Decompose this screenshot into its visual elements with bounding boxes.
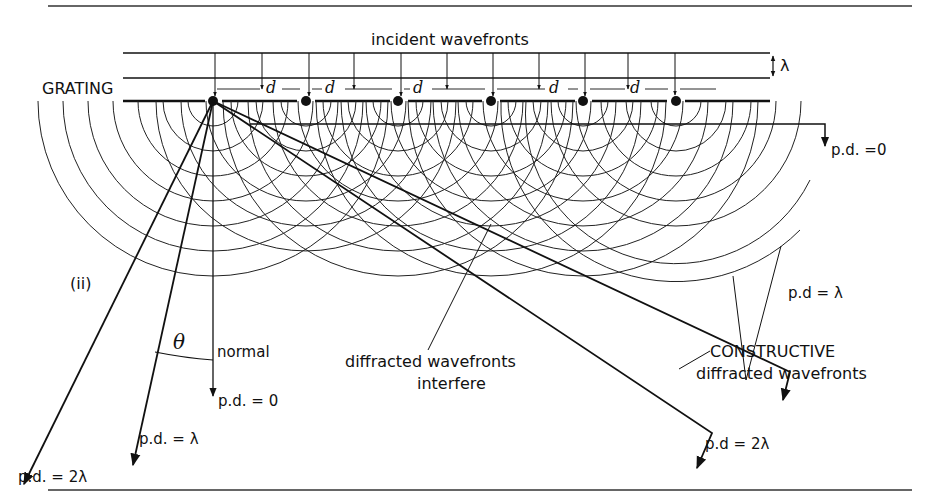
left-ray-label-pd-2lambda: p.d. = 2λ xyxy=(18,468,87,486)
d-label-4: d xyxy=(549,78,559,97)
constructive-label-line2: diffracted wavefronts xyxy=(696,364,867,383)
left-diffracted-rays xyxy=(24,101,213,484)
theta-label: θ xyxy=(173,330,185,354)
diffracted-wavefronts xyxy=(38,101,810,282)
right-ray-label-pd-lambda: p.d = λ xyxy=(788,284,843,302)
right-ray-label-pd-0: p.d. =0 xyxy=(831,141,886,159)
d-label-3: d xyxy=(413,78,423,97)
grating-label: GRATING xyxy=(42,79,113,98)
interfere-label-line1: diffracted wavefronts xyxy=(345,352,516,371)
left-ray-label-pd-0: p.d. = 0 xyxy=(218,392,278,410)
normal-label: normal xyxy=(217,343,270,361)
right-diffracted-rays xyxy=(213,101,825,468)
constructive-label-line1: CONSTRUCTIVE xyxy=(710,342,835,361)
ray-pd-2lambda-left xyxy=(24,101,213,484)
ray-pd-2lambda-right xyxy=(213,101,712,468)
interfere-label-line2: interfere xyxy=(417,374,486,393)
wavelength-label: λ xyxy=(780,56,789,75)
incident-rays xyxy=(215,53,675,96)
panel-label: (ii) xyxy=(70,274,91,293)
d-label-2: d xyxy=(325,78,335,97)
left-ray-label-pd-lambda: p.d. = λ xyxy=(139,430,199,448)
d-label-5: d xyxy=(630,78,640,97)
ray-pd-lambda-left xyxy=(133,101,213,465)
right-ray-label-pd-2lambda: p.d = 2λ xyxy=(705,435,769,453)
incident-wavefronts-label: incident wavefronts xyxy=(371,30,529,49)
d-label-1: d xyxy=(266,78,276,97)
diffraction-grating-diagram xyxy=(0,0,951,504)
